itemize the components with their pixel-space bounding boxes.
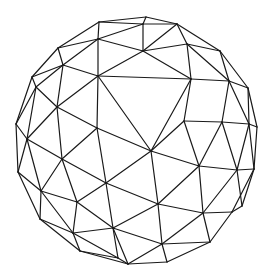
edge [222, 122, 249, 124]
edge [249, 124, 254, 169]
edge [58, 48, 63, 65]
edge [222, 122, 237, 170]
edge [16, 124, 18, 172]
edge [232, 169, 254, 212]
edge [158, 204, 162, 244]
edge [113, 204, 158, 228]
edge [18, 172, 41, 191]
edge [32, 77, 36, 87]
edge [80, 251, 128, 264]
edge [222, 81, 229, 122]
edge [77, 202, 113, 228]
edge [77, 183, 106, 202]
edge [98, 51, 143, 76]
edge [237, 169, 254, 170]
edge [151, 151, 199, 166]
edge [187, 44, 191, 79]
edge [254, 127, 257, 169]
edge [99, 22, 143, 24]
edge [151, 121, 184, 151]
edge [97, 76, 98, 128]
edge [18, 139, 27, 172]
edge [191, 79, 229, 81]
edge [146, 17, 177, 24]
edge [97, 128, 106, 183]
geodesic-sphere-wireframe [0, 0, 272, 280]
edge [57, 107, 62, 159]
geodesic-sphere-figure: Geodesic sphere wireframe [0, 0, 272, 280]
edge [62, 128, 97, 159]
edge [143, 51, 191, 79]
edge [210, 212, 232, 242]
edge [162, 242, 210, 244]
edge [184, 121, 222, 122]
edge [113, 228, 162, 244]
edge [106, 183, 158, 204]
edge [199, 166, 203, 213]
edge [57, 107, 97, 128]
edge [16, 77, 32, 124]
edge [143, 17, 146, 24]
edge [158, 204, 203, 213]
wireframe-edges [16, 17, 257, 264]
edge [57, 65, 63, 107]
edge [203, 170, 237, 213]
edge [27, 139, 62, 159]
edge [27, 139, 41, 191]
edge [63, 65, 98, 76]
edge [36, 87, 57, 107]
edge [203, 212, 232, 213]
edge [128, 244, 162, 264]
edge [41, 191, 77, 202]
edge [73, 202, 77, 233]
edge [98, 76, 191, 79]
edge [237, 124, 249, 170]
edge [16, 124, 27, 139]
edge [41, 159, 62, 191]
edge [167, 242, 210, 262]
edge [58, 22, 99, 48]
edge [242, 169, 254, 206]
edge [57, 76, 98, 107]
edge [98, 39, 143, 51]
edge [106, 151, 151, 183]
edge [162, 244, 167, 262]
edge [128, 262, 167, 264]
edge [203, 213, 210, 242]
edge [199, 122, 222, 166]
edge [113, 228, 128, 264]
edge [73, 228, 113, 233]
edge [18, 172, 40, 219]
edge [187, 44, 229, 81]
edge [162, 213, 203, 244]
edge [106, 183, 113, 228]
edge [184, 121, 199, 166]
edge [158, 166, 199, 204]
edge [99, 17, 146, 22]
edge [40, 191, 41, 219]
edge [199, 166, 237, 170]
edge [98, 22, 99, 39]
edge [151, 151, 158, 204]
edge [98, 24, 143, 39]
